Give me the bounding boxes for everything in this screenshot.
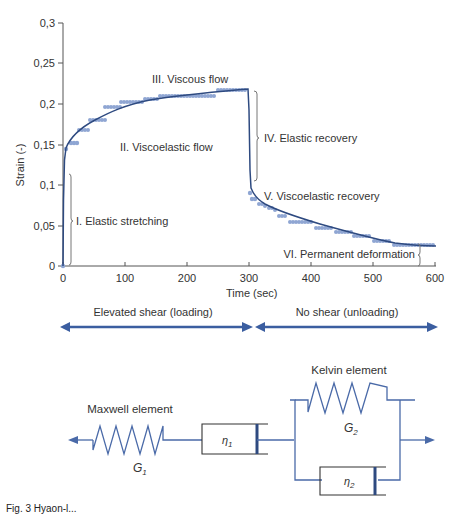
kelvin-element-label: Kelvin element xyxy=(311,364,387,376)
x-tick-label: 100 xyxy=(116,272,134,284)
y-tick-label: 0,05 xyxy=(34,220,55,232)
strain-curve xyxy=(63,89,436,266)
x-tick-label: 200 xyxy=(178,272,196,284)
annotation-viscous-flow: III. Viscous flow xyxy=(152,73,228,85)
spring-g1-icon xyxy=(93,426,202,454)
x-tick-label: 300 xyxy=(240,272,258,284)
force-arrow-right-icon xyxy=(425,436,435,444)
annotation-elastic-stretching: I. Elastic stretching xyxy=(76,215,168,227)
force-arrow-left-icon xyxy=(68,436,78,444)
spring-g2-icon xyxy=(295,383,415,413)
maxwell-element-label: Maxwell element xyxy=(87,403,173,415)
y-axis-label: Strain (-) xyxy=(14,144,26,187)
y-tick-labels: 0,3 0,25 0,2 0,15 0,1 0,05 0 xyxy=(34,17,55,272)
g1-label: G1 xyxy=(133,461,147,477)
y-tick-label: 0,15 xyxy=(34,139,55,151)
x-tick-label: 0 xyxy=(60,272,66,284)
x-tick-label: 600 xyxy=(426,272,444,284)
arrow-head-right-icon xyxy=(427,322,438,332)
bracket-permanent-deformation xyxy=(418,244,420,266)
strain-time-chart: 0,3 0,25 0,2 0,15 0,1 0,05 0 0 100 200 3… xyxy=(14,17,444,299)
x-tick-labels: 0 100 200 300 400 500 600 xyxy=(60,272,444,284)
eta2-label: η2 xyxy=(344,475,355,490)
kelvin-frame-left xyxy=(290,400,322,480)
x-axis-label: Time (sec) xyxy=(226,287,278,299)
phase-arrows: Elevated shear (loading) No shear (unloa… xyxy=(60,306,438,332)
figure-caption: Fig. 3 Hyaon-l... xyxy=(6,503,77,514)
data-markers xyxy=(61,88,435,268)
unloading-phase-label: No shear (unloading) xyxy=(296,306,399,318)
y-tick-label: 0 xyxy=(49,260,55,272)
arrow-head-left-icon xyxy=(255,322,265,332)
y-tick-label: 0,3 xyxy=(40,17,55,29)
x-tick-label: 400 xyxy=(302,272,320,284)
annotation-elastic-recovery: IV. Elastic recovery xyxy=(264,132,358,144)
arrow-head-left-icon xyxy=(60,322,70,332)
y-tick-label: 0,25 xyxy=(34,57,55,69)
bracket-elastic-recovery xyxy=(254,91,259,181)
annotation-viscoelastic-flow: II. Viscoelastic flow xyxy=(120,141,213,153)
loading-phase-label: Elevated shear (loading) xyxy=(93,306,212,318)
y-ticks xyxy=(58,23,63,266)
burgers-model-diagram: Maxwell element Kelvin element G1 η1 G2 … xyxy=(68,364,435,495)
bracket-elastic-stretching xyxy=(69,174,73,265)
annotation-viscoelastic-recovery: V. Viscoelastic recovery xyxy=(264,190,380,202)
y-tick-label: 0,2 xyxy=(40,98,55,110)
x-tick-label: 500 xyxy=(364,272,382,284)
eta1-label: η1 xyxy=(222,434,233,449)
x-ticks xyxy=(63,262,435,266)
g2-label: G2 xyxy=(344,421,358,437)
kelvin-frame-right xyxy=(378,400,400,480)
y-tick-label: 0,1 xyxy=(40,179,55,191)
arrow-head-right-icon xyxy=(242,322,253,332)
annotation-permanent-deformation: VI. Permanent deformation xyxy=(284,248,415,260)
